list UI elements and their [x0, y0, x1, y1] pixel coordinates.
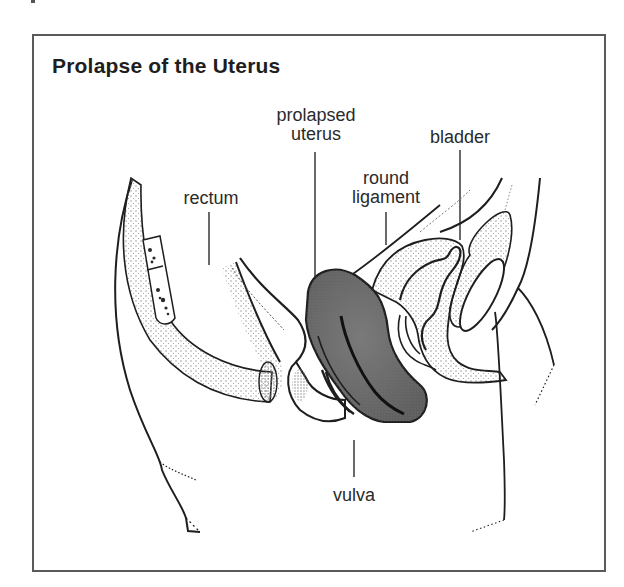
- label-vulva: vulva: [322, 486, 386, 505]
- label-round-ligament: round ligament: [340, 169, 432, 207]
- sacrum: [123, 178, 272, 402]
- anatomy-illustration: [0, 0, 624, 587]
- label-rectum-text: rectum: [176, 189, 246, 208]
- label-round-ligament-line2: ligament: [340, 188, 432, 207]
- label-bladder: bladder: [420, 128, 500, 147]
- label-prolapsed-uterus: prolapsed uterus: [268, 106, 364, 144]
- label-rectum: rectum: [176, 189, 246, 208]
- label-prolapsed-uterus-line2: uterus: [268, 125, 364, 144]
- label-prolapsed-uterus-line1: prolapsed: [268, 106, 364, 125]
- label-vulva-text: vulva: [322, 486, 386, 505]
- label-bladder-text: bladder: [420, 128, 500, 147]
- label-round-ligament-line1: round: [340, 169, 432, 188]
